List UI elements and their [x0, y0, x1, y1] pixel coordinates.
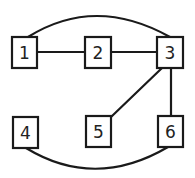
edge-1-3	[28, 16, 170, 37]
graph-diagram: 1 2 3 4 5 6	[0, 0, 195, 178]
node-3-label: 3	[165, 43, 176, 63]
node-2-label: 2	[93, 43, 104, 63]
node-1-label: 1	[19, 43, 30, 63]
edge-4-6	[26, 147, 168, 169]
node-6-label: 6	[165, 122, 176, 142]
node-5-label: 5	[93, 122, 104, 142]
node-4-label: 4	[20, 123, 31, 143]
edge-3-5	[111, 68, 162, 117]
